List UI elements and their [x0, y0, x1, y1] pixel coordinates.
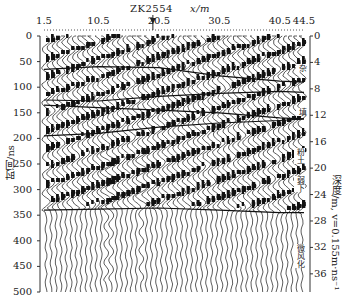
wiggle-trace-fill	[202, 180, 205, 184]
wiggle-trace-fill	[146, 42, 149, 46]
wiggle-trace-fill	[71, 120, 75, 124]
wiggle-trace-fill	[202, 184, 205, 188]
wiggle-trace-fill	[46, 58, 49, 62]
wiggle-trace-fill	[141, 150, 146, 154]
wiggle-trace-fill	[222, 52, 226, 56]
wiggle-trace-fill	[101, 182, 105, 186]
wiggle-trace-fill	[151, 54, 154, 58]
wiggle-trace-fill	[101, 92, 105, 96]
wiggle-trace-fill	[66, 34, 68, 38]
wiggle-trace-fill	[282, 158, 285, 162]
wiggle-trace-fill	[222, 138, 224, 142]
wiggle-trace-fill	[272, 142, 275, 146]
wiggle-trace-fill	[101, 54, 105, 58]
wiggle-trace-fill	[166, 178, 169, 182]
wiggle-trace-fill	[197, 132, 200, 136]
wiggle-trace	[278, 36, 286, 292]
wiggle-trace-fill	[51, 38, 55, 42]
wiggle-trace-fill	[66, 124, 68, 128]
wiggle-trace-fill	[91, 166, 95, 170]
wiggle-trace-fill	[232, 170, 235, 174]
wiggle-trace-fill	[187, 60, 190, 64]
wiggle-trace-fill	[81, 172, 84, 176]
wiggle-trace-fill	[242, 190, 244, 194]
wiggle-trace-fill	[51, 74, 55, 78]
wiggle-trace-fill	[227, 194, 231, 198]
wiggle-trace-fill	[156, 74, 160, 78]
wiggle-trace-fill	[51, 164, 54, 168]
wiggle-trace-fill	[101, 74, 104, 78]
wiggle-trace-fill	[136, 80, 140, 84]
wiggle-trace-fill	[282, 192, 285, 196]
wiggle-trace-fill	[207, 76, 209, 80]
wiggle-trace-fill	[212, 54, 217, 58]
wiggle-trace-fill	[197, 42, 201, 46]
wiggle-trace-fill	[121, 154, 123, 158]
wiggle-trace-fill	[212, 198, 215, 202]
wiggle-trace-fill	[51, 56, 55, 60]
wiggle-trace-fill	[161, 194, 164, 198]
wiggle-trace-fill	[46, 76, 49, 80]
wiggle-trace-fill	[81, 82, 84, 86]
wiggle-trace-fill	[287, 48, 290, 52]
wiggle-trace-fill	[106, 54, 110, 58]
wiggle-trace-fill	[277, 106, 279, 110]
wiggle-trace-fill	[182, 120, 184, 124]
wiggle-trace-fill	[242, 80, 246, 84]
wiggle-trace-fill	[237, 82, 241, 86]
wiggle-trace-fill	[156, 178, 158, 182]
wiggle-trace-fill	[46, 130, 50, 134]
wiggle-trace-fill	[166, 70, 170, 74]
wiggle-trace-fill	[277, 190, 279, 194]
wiggle-trace-fill	[86, 170, 89, 174]
wiggle-trace-fill	[207, 182, 211, 186]
wiggle-trace-fill	[151, 180, 155, 184]
wiggle-trace-fill	[131, 190, 135, 194]
wiggle-trace-fill	[232, 100, 235, 104]
wiggle-trace-fill	[222, 124, 225, 128]
wiggle-trace-fill	[51, 124, 54, 128]
wiggle-trace-fill	[252, 186, 254, 190]
wiggle-trace-fill	[126, 192, 130, 196]
wiggle-trace-fill	[126, 100, 130, 104]
wiggle-trace-fill	[257, 36, 259, 40]
wiggle-trace-fill	[96, 148, 99, 152]
wiggle-trace-fill	[302, 42, 305, 46]
wiggle-trace-fill	[101, 112, 104, 116]
wiggle-trace-fill	[277, 122, 281, 126]
wiggle-trace-fill	[177, 158, 180, 162]
wiggle-trace-fill	[56, 178, 60, 182]
wiggle-trace-fill	[111, 196, 117, 200]
wiggle-trace-fill	[277, 138, 280, 142]
wiggle-trace-fill	[297, 130, 300, 134]
wiggle-trace-fill	[116, 34, 120, 38]
wiggle-trace-fill	[237, 118, 241, 122]
wiggle-trace-fill	[171, 84, 174, 88]
wiggle-trace-fill	[227, 140, 230, 144]
wiggle-trace-fill	[292, 206, 296, 210]
wiggle-trace-fill	[227, 176, 231, 180]
wiggle-trace-fill	[86, 78, 90, 82]
wiggle-trace-fill	[116, 160, 119, 164]
wiggle-trace-fill	[161, 86, 163, 90]
wiggle-trace-fill	[202, 162, 205, 166]
wiggle-trace-fill	[217, 162, 219, 166]
wiggle-trace-fill	[126, 82, 130, 86]
wiggle-trace-fill	[262, 74, 265, 78]
wiggle-trace-fill	[257, 166, 260, 170]
wiggle-trace-fill	[111, 124, 115, 128]
wiggle-trace-fill	[106, 38, 109, 42]
wiggle-trace-fill	[262, 164, 265, 168]
wiggle-trace-fill	[171, 50, 175, 54]
wiggle-trace-fill	[91, 186, 94, 190]
wiggle-trace-fill	[51, 198, 55, 202]
wiggle-trace-fill	[71, 158, 73, 162]
wiggle-trace-fill	[277, 194, 281, 198]
wiggle-trace-fill	[156, 164, 159, 168]
wiggle-trace-fill	[141, 184, 145, 188]
wiggle-trace-fill	[156, 146, 159, 150]
wiggle-trace-fill	[177, 174, 181, 178]
wiggle-trace-fill	[151, 72, 154, 76]
wiggle-trace-fill	[161, 144, 165, 148]
wiggle-trace-fill	[197, 202, 202, 206]
